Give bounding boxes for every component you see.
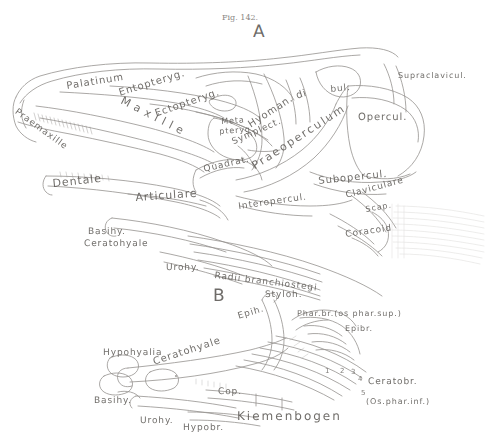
arch-number-1: 1 [325,367,329,375]
label-b-epibr: Epibr. [345,325,373,333]
arch-number-5: 5 [361,389,365,397]
label-a-ceratohyale: Ceratohyale [84,240,149,249]
label-a-urohy: Urohy. [166,264,200,273]
label-a-basihy: Basihy. [88,228,126,237]
label-b-ceratobr: Ceratobr. [368,378,418,387]
label-b-urohy: Urohy. [140,417,174,426]
label-a-supraclavicul: Supraclavicul. [398,72,467,80]
panel-b-title: B [213,288,226,305]
label-b-cop: Cop. [218,388,242,397]
label-b-kiemenbogen: Kiemenbogen [237,410,342,422]
skull-outline-group [13,48,484,426]
arch-number-2: 2 [340,367,344,375]
illustration-plate: Fig. 142. A B PraemaxilleMaxillePalatinu… [0,0,487,445]
label-b-styloh: Styloh. [265,291,302,300]
arch-number-4: 4 [358,375,362,383]
label-b-pharbros-pharsup: Phar.br.(os phar.sup.) [297,310,402,318]
label-b-basihy: Basihy. [94,397,132,406]
label-b-ospharinf: (Os.phar.inf.) [366,398,430,406]
panel-a-title: A [253,24,266,41]
figure-caption: Fig. 142. [222,13,258,22]
label-b-hypobr: Hypobr. [183,424,224,433]
label-a-opercul: Opercul. [358,113,407,123]
arch-number-3: 3 [351,368,355,376]
